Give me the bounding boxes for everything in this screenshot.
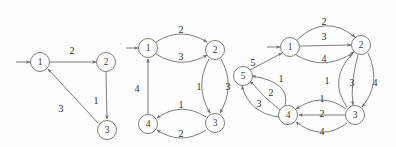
node-label-g2-3: 3 — [213, 118, 218, 128]
graph-canvas: 1 2 3 2 1 3 1 2 3 4 — [0, 0, 396, 147]
edge-g1-2-3 — [106, 72, 107, 119]
node-label-g2-1: 1 — [146, 43, 151, 53]
edge-weight-g2-3-4-a: 1 — [179, 99, 184, 110]
scan-speck — [120, 43, 122, 45]
edge-weight-g3-4-5-b: 2 — [269, 87, 274, 98]
edge-weight-g2-1-2-a: 2 — [179, 24, 184, 35]
edge-weight-g1-1-2: 2 — [70, 45, 75, 56]
edge-weight-g2-3-4-b: 2 — [179, 128, 184, 139]
edge-weight-g1-3-1: 3 — [59, 103, 64, 114]
edge-weight-g3-1-2-b: 3 — [322, 31, 327, 42]
edge-weight-g3-1-2-a: 2 — [322, 16, 327, 27]
edge-weight-g3-3-2: 1 — [325, 75, 330, 86]
edge-weight-g3-2-3-a: 3 — [350, 77, 355, 88]
node-label-g1-1: 1 — [38, 57, 43, 67]
edge-weight-g3-3-4-c: 4 — [320, 126, 325, 137]
edge-g1-3-1 — [48, 69, 98, 123]
edge-weight-g2-2-3-b: 1 — [197, 81, 202, 92]
edge-weight-g3-5-1: 5 — [251, 57, 256, 68]
edge-weight-g1-2-3: 1 — [94, 95, 99, 106]
edge-weight-g2-4-1: 4 — [135, 83, 140, 94]
edge-weight-g2-2-3-a: 3 — [226, 81, 231, 92]
edge-weight-g3-1-2-c: 4 — [322, 53, 327, 64]
node-label-g3-5: 5 — [241, 71, 246, 81]
node-label-g2-4: 4 — [146, 119, 151, 129]
edge-weight-g3-4-5-a: 1 — [279, 73, 284, 84]
node-label-g3-1: 1 — [288, 42, 293, 52]
edge-g2-2-3-b — [202, 59, 210, 113]
graph-3: 1 2 3 4 5 2 3 4 3 4 1 1 2 4 1 2 3 5 — [234, 16, 378, 137]
graph-1: 1 2 3 2 1 3 — [16, 45, 117, 140]
node-label-g3-4: 4 — [286, 110, 291, 120]
graph-figure: 1 2 3 2 1 3 1 2 3 4 — [0, 0, 396, 147]
node-label-g3-2: 2 — [359, 40, 364, 50]
edge-g3-4-5-b — [250, 81, 280, 110]
edge-weight-g3-3-4-a: 1 — [320, 93, 325, 104]
edge-g2-1-2-a — [156, 34, 207, 42]
edge-weight-g3-3-4-b: 2 — [320, 108, 325, 119]
edge-g2-3-4-a — [157, 109, 206, 118]
node-label-g2-2: 2 — [213, 45, 218, 55]
edge-weight-g3-4-5-c: 3 — [257, 98, 262, 109]
node-label-g1-2: 2 — [104, 57, 109, 67]
edge-weight-g3-2-3-b: 4 — [373, 77, 378, 88]
graph-2: 1 2 3 4 2 3 3 1 1 2 4 — [126, 24, 231, 139]
edge-g3-1-2-b — [300, 45, 351, 46]
node-label-g1-3: 3 — [105, 125, 110, 135]
node-label-g3-3: 3 — [353, 110, 358, 120]
edge-weight-g2-1-2-b: 3 — [179, 51, 184, 62]
